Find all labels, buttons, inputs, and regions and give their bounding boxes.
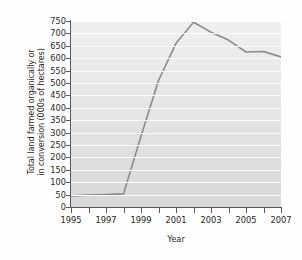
chart-container: Total land farmed organically or in conv… xyxy=(0,0,302,260)
x-axis-tick-mark xyxy=(229,208,230,213)
x-axis-tick-mark xyxy=(89,208,90,213)
gridline xyxy=(71,95,281,96)
gridline xyxy=(71,83,281,84)
y-axis-tick-mark xyxy=(66,145,71,146)
y-axis-tick-mark xyxy=(66,133,71,134)
y-axis-tick-label: 250 xyxy=(40,140,66,150)
gridline xyxy=(71,21,281,22)
x-axis-tick-mark xyxy=(264,208,265,213)
y-axis-tick-label: 600 xyxy=(40,53,66,63)
y-axis-tick-mark xyxy=(66,195,71,196)
y-axis-tick-mark xyxy=(66,58,71,59)
gridline xyxy=(71,133,281,134)
y-axis-tick-label: 350 xyxy=(40,115,66,125)
y-axis-tick-mark xyxy=(66,157,71,158)
y-axis-tick-label: 300 xyxy=(40,128,66,138)
x-axis-tick-mark xyxy=(176,208,177,213)
y-axis-tick-mark xyxy=(66,33,71,34)
x-axis-tick-label: 2007 xyxy=(264,215,298,225)
gridline xyxy=(71,182,281,183)
x-axis-title: Year xyxy=(71,234,281,244)
y-axis-tick-label: 450 xyxy=(40,90,66,100)
plot-area xyxy=(71,21,281,207)
x-axis-tick-label: 2003 xyxy=(194,215,228,225)
y-axis-tick-label: 200 xyxy=(40,152,66,162)
x-axis-tick-mark xyxy=(141,208,142,213)
x-axis-tick-mark xyxy=(124,208,125,213)
y-axis-tick-label: 100 xyxy=(40,177,66,187)
gridline xyxy=(71,170,281,171)
y-axis-tick-label: 50 xyxy=(40,190,66,200)
y-axis-tick-label: 550 xyxy=(40,66,66,76)
gridline xyxy=(71,195,281,196)
y-axis-tick-label: 500 xyxy=(40,78,66,88)
x-axis-tick-label: 1999 xyxy=(124,215,158,225)
y-axis-tick-label: 400 xyxy=(40,103,66,113)
x-axis-tick-label: 1995 xyxy=(54,215,88,225)
y-axis-tick-mark xyxy=(66,108,71,109)
y-axis-tick-mark xyxy=(66,95,71,96)
gridline xyxy=(71,108,281,109)
y-axis-tick-mark xyxy=(66,46,71,47)
y-axis-tick-label: 650 xyxy=(40,41,66,51)
y-axis-tick-mark xyxy=(66,182,71,183)
x-axis-tick-label: 1997 xyxy=(89,215,123,225)
y-axis-tick-mark xyxy=(66,21,71,22)
y-axis-tick-label: 700 xyxy=(40,28,66,38)
gridline xyxy=(71,71,281,72)
x-axis-tick-label: 2001 xyxy=(159,215,193,225)
gridline xyxy=(71,58,281,59)
gridline xyxy=(71,33,281,34)
y-axis-line xyxy=(70,20,71,208)
gridline xyxy=(71,145,281,146)
y-axis-title-line-1: Total land farmed organically or xyxy=(26,48,36,175)
y-axis-tick-mark xyxy=(66,71,71,72)
x-axis-tick-label: 2005 xyxy=(229,215,263,225)
gridline xyxy=(71,120,281,121)
y-axis-tick-mark xyxy=(66,120,71,121)
gridline xyxy=(71,46,281,47)
x-axis-tick-mark xyxy=(106,208,107,213)
y-axis-tick-mark xyxy=(66,83,71,84)
data-line-series xyxy=(71,21,281,207)
y-axis-tick-label: 750 xyxy=(40,16,66,26)
x-axis-tick-mark xyxy=(159,208,160,213)
y-axis-tick-mark xyxy=(66,170,71,171)
x-axis-tick-mark xyxy=(211,208,212,213)
x-axis-tick-mark xyxy=(281,208,282,213)
y-axis-tick-label: 0 xyxy=(40,202,66,212)
x-axis-tick-mark xyxy=(71,208,72,213)
x-axis-tick-mark xyxy=(246,208,247,213)
y-axis-tick-label: 150 xyxy=(40,165,66,175)
gridline xyxy=(71,157,281,158)
x-axis-tick-mark xyxy=(194,208,195,213)
